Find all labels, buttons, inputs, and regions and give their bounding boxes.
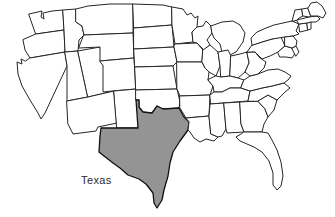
- us-map-svg: [0, 0, 335, 217]
- state-kansas: [135, 66, 177, 90]
- state-connecticut: [299, 23, 308, 32]
- state-florida: [236, 132, 283, 190]
- state-arkansas: [180, 95, 210, 118]
- state-new-jersey: [285, 36, 297, 48]
- state-south-dakota: [134, 25, 174, 49]
- state-new-mexico: [114, 89, 139, 128]
- state-mississippi: [209, 103, 226, 137]
- state-ohio: [230, 52, 249, 78]
- state-montana: [76, 4, 133, 35]
- state-iowa: [174, 43, 203, 62]
- state-maine: [308, 2, 326, 18]
- state-nebraska: [134, 47, 177, 67]
- state-california: [17, 52, 67, 119]
- state-north-dakota: [133, 4, 172, 28]
- texas-state-label: Texas: [81, 175, 112, 186]
- state-indiana: [218, 50, 231, 77]
- us-map-figure: Texas: [0, 0, 335, 217]
- state-colorado: [100, 58, 136, 92]
